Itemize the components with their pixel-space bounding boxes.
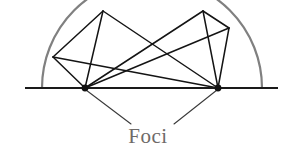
foci-label: Foci [128, 124, 167, 148]
left-focus [82, 85, 89, 92]
right-focus [215, 85, 222, 92]
figure-container: Foci [0, 0, 294, 160]
foci-diagram-svg: Foci [0, 0, 294, 160]
